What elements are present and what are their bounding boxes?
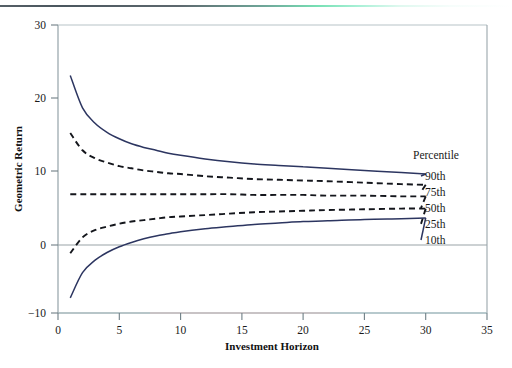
axis-lines	[58, 25, 487, 313]
legend-label-25th: 25th	[425, 218, 446, 230]
y-tick-label-10: 10	[35, 165, 47, 177]
x-tick-label-10: 10	[175, 324, 187, 336]
series-line-25th	[70, 209, 425, 254]
series-line-10th	[70, 218, 425, 298]
x-tick-label-20: 20	[297, 324, 309, 336]
x-tick-label-15: 15	[236, 324, 248, 336]
x-tick-label-25: 25	[359, 324, 371, 336]
chart-canvas: 30 20 10 0 −10 0 5 10 15 20 25 30 35 Inv…	[0, 0, 512, 368]
x-tick-labels: 0 5 10 15 20 25 30 35	[55, 324, 493, 336]
legend-title: Percentile	[413, 149, 459, 161]
series-layer	[70, 75, 425, 297]
legend-label-50th: 50th	[425, 202, 446, 214]
y-tick-marks	[51, 25, 58, 313]
series-line-50th	[70, 194, 425, 196]
y-tick-label-30: 30	[35, 19, 47, 31]
legend: Percentile 90th 75th 50th 25th 10th	[413, 149, 459, 246]
series-line-90th	[70, 75, 425, 174]
x-tick-label-0: 0	[55, 324, 61, 336]
y-tick-label-20: 20	[35, 92, 47, 104]
x-tick-marks	[58, 313, 487, 320]
y-tick-labels: 30 20 10 0 −10	[28, 19, 46, 319]
x-tick-label-30: 30	[420, 324, 432, 336]
x-tick-label-35: 35	[481, 324, 493, 336]
y-tick-label-neg10: −10	[28, 307, 46, 319]
legend-label-75th: 75th	[425, 186, 446, 198]
figure-container: 30 20 10 0 −10 0 5 10 15 20 25 30 35 Inv…	[0, 0, 512, 368]
x-tick-label-5: 5	[116, 324, 122, 336]
x-axis-title: Investment Horizon	[225, 340, 319, 352]
legend-label-90th: 90th	[425, 170, 446, 182]
y-tick-label-0: 0	[40, 239, 46, 251]
y-axis-title: Geometric Return	[12, 126, 24, 212]
legend-label-10th: 10th	[425, 234, 446, 246]
